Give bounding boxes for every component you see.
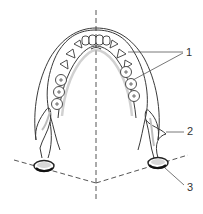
right-condyle: [148, 158, 168, 169]
mandible-body: [35, 28, 159, 150]
leader-3: [165, 168, 184, 185]
tooth-incisor: [96, 35, 103, 45]
tooth-incisor: [103, 36, 110, 45]
left-condylar-axis: [14, 160, 96, 183]
label-2: 2: [187, 126, 193, 137]
mandible-diagram: [0, 0, 203, 214]
tooth-premolar: [66, 49, 75, 58]
left-condyle: [34, 161, 54, 172]
tooth-incisor: [89, 35, 96, 45]
tooth-premolar: [117, 49, 126, 58]
tooth-incisor: [82, 36, 89, 45]
right-ramus: [145, 110, 166, 158]
label-1: 1: [186, 47, 192, 58]
label-3: 3: [187, 182, 193, 193]
leader-1b: [133, 53, 183, 80]
tooth-canine: [74, 40, 82, 48]
tooth-canine: [110, 40, 118, 48]
left-ramus: [36, 108, 52, 158]
right-condylar-axis: [96, 155, 188, 183]
tooth-premolar: [60, 60, 68, 69]
